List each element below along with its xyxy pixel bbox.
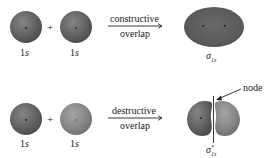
node-label: node [243, 83, 262, 93]
top-1s-orbital-a [10, 11, 42, 43]
bottom-1s-orbital-b [60, 103, 92, 135]
node-pointer-arrow [216, 89, 241, 101]
constructive-label: constructive [110, 14, 159, 24]
top-orbital-a-label: 1s [20, 48, 29, 58]
label-subshell: s [25, 138, 29, 149]
bottom-1s-orbital-a [10, 103, 42, 135]
top-overlap-label: overlap [120, 29, 150, 39]
bottom-orbital-a-label: 1s [20, 139, 29, 149]
top-plus-sign: + [47, 22, 53, 32]
label-subshell: s [75, 47, 79, 58]
label-subshell: s [25, 47, 29, 58]
top-orbital-b-label: 1s [70, 48, 79, 58]
destructive-label: destructive [112, 106, 156, 116]
bottom-plus-sign: + [47, 114, 53, 124]
bottom-overlap-label: overlap [120, 121, 150, 131]
bottom-orbital-b-label: 1s [70, 139, 79, 149]
sigma-subscript: 1s [211, 149, 216, 158]
top-1s-orbital-b [60, 11, 92, 43]
sigma-star-1s-label: σ*1s [206, 145, 218, 155]
sigma-1s-bonding-orbital [184, 7, 244, 47]
sigma-subscript: 1s [211, 57, 216, 63]
sigma-1s-label: σ1s [206, 51, 216, 65]
label-subshell: s [75, 138, 79, 149]
